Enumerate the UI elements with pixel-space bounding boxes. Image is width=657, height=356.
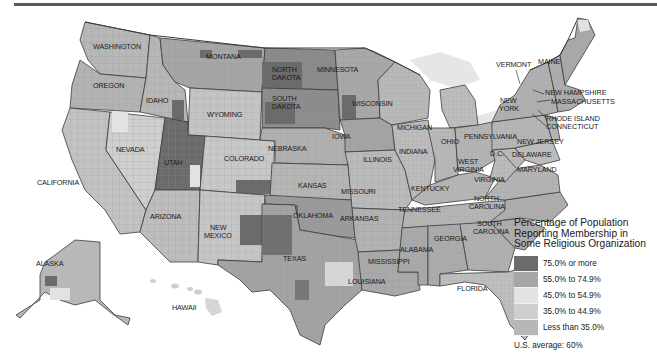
legend-swatch (514, 256, 538, 272)
label-ohio: OHIO (441, 137, 459, 146)
label-alabama: ALABAMA (400, 245, 434, 254)
label-kentucky: KENTUCKY (411, 184, 450, 193)
label-texas: TEXAS (283, 254, 306, 263)
label-kansas: KANSAS (298, 181, 327, 190)
label-new-york-2: YORK (499, 104, 519, 113)
label-georgia: GEORGIA (434, 234, 467, 243)
label-massachusetts: MASSACHUSETTS (551, 97, 615, 106)
legend-label: Less than 35.0% (543, 323, 604, 332)
label-virginia: VIRGINIA (474, 175, 505, 184)
label-new-mexico-2: MEXICO (204, 231, 232, 240)
label-new-hampshire: NEW HAMPSHIRE (545, 88, 607, 97)
label-idaho: IDAHO (146, 96, 169, 105)
legend-title-line-1: Percentage of Population (514, 218, 657, 229)
state-colorado (200, 136, 275, 196)
label-hawaii: HAWAII (172, 303, 197, 312)
label-arizona: ARIZONA (150, 212, 182, 221)
legend-item-35-44: 35.0% to 44.9% (514, 304, 657, 320)
label-michigan: MICHIGAN (397, 123, 432, 132)
label-tennessee: TENNESSEE (398, 205, 441, 214)
label-south-dakota-2: DAKOTA (272, 102, 301, 111)
label-california: CALIFORNIA (37, 178, 79, 187)
label-oregon: OREGON (93, 81, 124, 90)
legend-swatch (514, 272, 538, 288)
label-vermont: VERMONT (496, 60, 532, 69)
label-iowa: IOWA (332, 132, 351, 141)
label-nevada: NEVADA (116, 145, 145, 154)
label-louisiana: LOUISIANA (348, 277, 386, 286)
label-south-carolina-2: CAROLINA (473, 227, 509, 236)
us-average-note: U.S. average: 60% (514, 341, 657, 350)
label-indiana: INDIANA (399, 147, 428, 156)
state-alaska (16, 240, 130, 325)
label-new-jersey: NEW JERSEY (517, 137, 564, 146)
label-maryland: MARYLAND (517, 165, 557, 174)
legend-label: 35.0% to 44.9% (543, 307, 601, 316)
label-minnesota: MINNESOTA (317, 65, 359, 74)
legend-label: 45.0% to 54.9% (543, 291, 601, 300)
label-arkansas: ARKANSAS (340, 214, 379, 223)
label-dc-inline: D.C. (490, 149, 504, 158)
legend-label: 55.0% to 74.9% (543, 275, 601, 284)
label-illinois: ILLINOIS (363, 155, 392, 164)
legend-title-line-3: Some Religious Organization (514, 239, 657, 250)
legend-title: Percentage of Population Reporting Membe… (514, 218, 657, 250)
label-montana: MONTANA (206, 52, 241, 61)
legend-label: 75.0% or more (543, 259, 597, 268)
label-missouri: MISSOURI (341, 187, 376, 196)
legend-swatch (514, 320, 538, 336)
legend-item-75-plus: 75.0% or more (514, 256, 657, 272)
label-west-virginia-2: VIRGINIA (453, 165, 484, 174)
label-florida: FLORIDA (457, 284, 488, 293)
label-colorado: COLORADO (224, 154, 265, 163)
legend-swatch (514, 288, 538, 304)
legend: Percentage of Population Reporting Membe… (514, 218, 657, 350)
label-mississippi: MISSISSIPPI (368, 257, 410, 266)
legend-item-45-54: 45.0% to 54.9% (514, 288, 657, 304)
legend-swatch (514, 304, 538, 320)
label-alaska: ALASKA (36, 259, 64, 268)
legend-item-lt-35: Less than 35.0% (514, 320, 657, 336)
label-connecticut: CONNECTICUT (546, 122, 599, 131)
label-washington: WASHINGTON (93, 42, 141, 51)
label-utah: UTAH (164, 158, 183, 167)
label-nebraska: NEBRASKA (268, 144, 307, 153)
label-pennsylvania: PENNSYLVANIA (464, 132, 517, 141)
state-michigan (440, 85, 478, 128)
label-wyoming: WYOMING (207, 110, 243, 119)
label-north-carolina-2: CAROLINA (469, 202, 505, 211)
label-wisconsin: WISCONSIN (352, 99, 393, 108)
label-north-dakota-2: DAKOTA (272, 73, 301, 82)
legend-item-55-74: 55.0% to 74.9% (514, 272, 657, 288)
label-maine: MAINE (538, 57, 561, 66)
label-delaware: DELAWARE (512, 150, 552, 159)
state-new-mexico (198, 190, 265, 265)
label-oklahoma: OKLAHOMA (293, 211, 333, 220)
